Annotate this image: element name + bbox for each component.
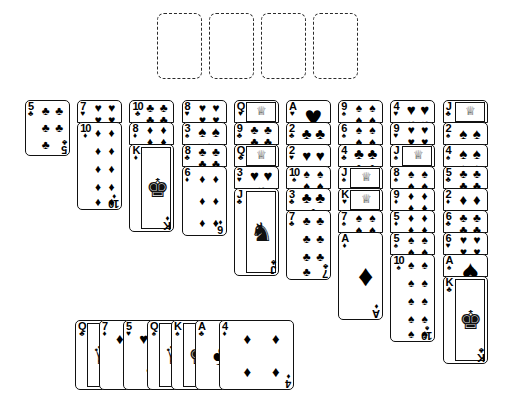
court-card-art: ♕	[350, 190, 380, 210]
reserve-card-4-diamonds[interactable]: 4♦♦♦♦♦4♦	[219, 320, 294, 390]
card-index-top: 8♦	[132, 123, 137, 140]
card-8-hearts[interactable]: 8♥♥♥♥♥♥♥♥♥	[182, 100, 227, 123]
card-4-clubs[interactable]: 4♣♣♣♣♣	[338, 144, 383, 167]
card-5-diamonds[interactable]: 5♦♦♦♦♦♦	[390, 210, 435, 233]
card-index-top: 4♥	[393, 101, 398, 118]
card-Q-clubs[interactable]: Q♣♕	[234, 144, 279, 167]
card-suit-clubs: ♣	[185, 154, 190, 162]
card-K-clubs[interactable]: K♣♚K♣	[443, 276, 488, 364]
card-suit-spades: ♠	[342, 176, 346, 184]
card-9-spades[interactable]: 9♠♠♠♠♠♠♠♠♠♠	[338, 100, 383, 123]
pip-field: ♣♣	[300, 124, 327, 143]
card-A-hearts[interactable]: A♥♥	[286, 100, 331, 123]
card-10-spades[interactable]: 10♠♠♠♠♠♠♠♠♠♠♠	[286, 166, 331, 189]
card-A-diamonds[interactable]: A♦♦A♦	[338, 232, 383, 320]
card-2-diamonds[interactable]: 2♦♦♦	[443, 188, 488, 211]
pip-field: ♦♦♦♦♦♦♦♦♦	[404, 190, 431, 209]
card-J-clubs[interactable]: J♣♞J♣	[234, 188, 279, 276]
suit-pip-♠: ♠	[421, 277, 427, 289]
card-8-spades[interactable]: 8♠♠♠♠♠♠♠♠♠	[390, 166, 435, 189]
suit-pip-♠: ♠	[408, 313, 414, 325]
card-index-top: 4♦	[222, 321, 227, 338]
card-suit-hearts: ♥	[289, 154, 294, 162]
card-index-top: 5♥	[126, 321, 131, 338]
card-9-hearts[interactable]: 9♥♥♥♥♥♥♥♥♥♥	[390, 122, 435, 145]
card-J-clubs[interactable]: J♣♕	[443, 100, 488, 123]
card-index-bottom: A♦	[373, 302, 380, 319]
suit-pip-♦: ♦	[213, 195, 219, 207]
pip-field: ♥♥	[300, 146, 327, 165]
card-J-spades[interactable]: J♠♕	[338, 166, 383, 189]
card-index-top: K♣	[446, 277, 453, 294]
card-6-spades[interactable]: 6♠♠♠♠♠♠♠	[338, 122, 383, 145]
tableau-column-3[interactable]: 10♣♣♣♣♣♣♣♣♣♣♣8♦♦♦♦♦♦♦♦♦K♦♚K♦	[129, 100, 174, 232]
card-5-spades[interactable]: 5♠♠♠♠♠♠	[390, 232, 435, 255]
card-suit-diamonds: ♦	[103, 330, 107, 338]
card-8-clubs[interactable]: 8♣♣♣♣♣♣♣♣♣	[182, 144, 227, 167]
tableau-column-5[interactable]: Q♥♕9♣♣♣♣♣♣♣♣♣♣Q♣♕3♥♥♥♥J♣♞J♣	[234, 100, 279, 276]
card-index-top: 10♠	[393, 255, 403, 272]
card-9-clubs[interactable]: 9♣♣♣♣♣♣♣♣♣♣	[234, 122, 279, 145]
tableau-column-6[interactable]: A♥♥2♣♣♣2♥♥♥10♠♠♠♠♠♠♠♠♠♠♠3♣♣♣♣7♣♣♣♣♣♣♣♣7♣	[286, 100, 331, 280]
card-2-spades[interactable]: 2♠♠♠	[443, 122, 488, 145]
suit-pip-♠: ♠	[462, 256, 478, 277]
card-K-diamonds[interactable]: K♦♚K♦	[129, 144, 174, 232]
free-cell-2[interactable]	[209, 13, 254, 79]
pip-field: ♠	[457, 256, 484, 275]
pip-field: ♥♥♥♥♥♥	[457, 234, 484, 253]
suit-pip-♣: ♣	[315, 126, 325, 141]
card-7-clubs[interactable]: 7♣♣♣♣♣♣♣♣7♣	[286, 210, 331, 280]
card-K-hearts[interactable]: K♥♕	[338, 188, 383, 211]
card-9-diamonds[interactable]: 9♦♦♦♦♦♦♦♦♦♦	[390, 188, 435, 211]
card-Q-hearts[interactable]: Q♥♕	[234, 100, 279, 123]
suit-pip-♦: ♦	[108, 127, 114, 139]
tableau-column-1[interactable]: 5♣♣♣♣♣♣5♣	[25, 100, 70, 156]
card-7-hearts[interactable]: 7♥♥♥♥♥♥♥♥	[77, 100, 122, 123]
suit-pip-♠: ♠	[198, 124, 206, 139]
pip-field: ♣♣♣♣♣♣♣♣	[196, 146, 223, 165]
card-suit-clubs: ♣	[341, 154, 346, 162]
card-4-spades[interactable]: 4♠♠♠♠♠	[443, 144, 488, 167]
card-5-clubs[interactable]: 5♣♣♣♣♣♣5♣	[25, 100, 70, 156]
card-10-diamonds[interactable]: 10♦♦♦♦♦♦♦♦♦♦♦10♦	[77, 122, 122, 210]
suit-pip-♥: ♥	[316, 148, 325, 163]
suit-pip-♥: ♥	[250, 168, 259, 183]
card-7-spades[interactable]: 7♠♠♠♠♠♠♠♠	[338, 210, 383, 233]
pip-field: ♠♠♠♠	[457, 146, 484, 165]
card-10-spades[interactable]: 10♠♠♠♠♠♠♠♠♠♠♠10♠	[390, 254, 435, 342]
card-8-diamonds[interactable]: 8♦♦♦♦♦♦♦♦♦	[129, 122, 174, 145]
card-suit-diamonds: ♦	[343, 242, 347, 250]
tableau-column-7[interactable]: 9♠♠♠♠♠♠♠♠♠♠6♠♠♠♠♠♠♠4♣♣♣♣♣J♠♕K♥♕7♠♠♠♠♠♠♠♠…	[338, 100, 383, 320]
card-10-clubs[interactable]: 10♣♣♣♣♣♣♣♣♣♣♣	[129, 100, 174, 123]
tableau-column-2[interactable]: 7♥♥♥♥♥♥♥♥10♦♦♦♦♦♦♦♦♦♦♦10♦	[77, 100, 122, 210]
card-3-spades[interactable]: 3♠♠♠♠	[182, 122, 227, 145]
card-index-top: J♠	[341, 167, 346, 184]
tableau-column-4[interactable]: 8♥♥♥♥♥♥♥♥♥3♠♠♠♠8♣♣♣♣♣♣♣♣♣6♦♦♦♦♦♦♦6♦	[182, 100, 227, 236]
solitaire-board: 5♣♣♣♣♣♣5♣7♥♥♥♥♥♥♥♥10♦♦♦♦♦♦♦♦♦♦♦10♦10♣♣♣♣…	[0, 0, 513, 407]
court-figure-J: ♕	[403, 147, 431, 165]
pip-field: ♠♠♠♠♠♠♠♠	[404, 168, 431, 187]
card-6-hearts[interactable]: 6♥♥♥♥♥♥♥	[443, 232, 488, 255]
suit-pip-♣: ♣	[303, 251, 311, 263]
free-cell-3[interactable]	[261, 13, 306, 79]
tableau-column-8[interactable]: 4♥♥♥♥♥9♥♥♥♥♥♥♥♥♥♥J♠♕8♠♠♠♠♠♠♠♠♠9♦♦♦♦♦♦♦♦♦…	[390, 100, 435, 342]
card-J-spades[interactable]: J♠♕	[390, 144, 435, 167]
card-5-clubs[interactable]: 5♣♣♣♣♣♣	[443, 166, 488, 189]
card-6-clubs[interactable]: 6♣♣♣♣♣♣♣	[443, 210, 488, 233]
card-3-hearts[interactable]: 3♥♥♥♥	[234, 166, 279, 189]
card-3-clubs[interactable]: 3♣♣♣♣	[286, 188, 331, 211]
card-4-hearts[interactable]: 4♥♥♥♥♥	[390, 100, 435, 123]
tableau-column-9[interactable]: J♣♕2♠♠♠4♠♠♠♠♠5♣♣♣♣♣♣2♦♦♦6♣♣♣♣♣♣♣6♥♥♥♥♥♥♥…	[443, 100, 488, 364]
card-suit-clubs: ♣	[323, 262, 328, 270]
free-cell-4[interactable]	[313, 13, 358, 79]
card-6-diamonds[interactable]: 6♦♦♦♦♦♦♦6♦	[182, 166, 227, 236]
card-A-spades[interactable]: A♠♠	[443, 254, 488, 277]
suit-pip-♦: ♦	[95, 196, 101, 208]
card-2-clubs[interactable]: 2♣♣♣	[286, 122, 331, 145]
card-suit-spades: ♠	[342, 132, 346, 140]
free-cell-1[interactable]	[157, 13, 202, 79]
card-index-top: 6♦	[185, 167, 190, 184]
court-figure-J: ♕	[456, 103, 484, 121]
card-2-hearts[interactable]: 2♥♥♥	[286, 144, 331, 167]
pip-field: ♠♠♠♠♠♠♠♠♠	[352, 102, 379, 121]
